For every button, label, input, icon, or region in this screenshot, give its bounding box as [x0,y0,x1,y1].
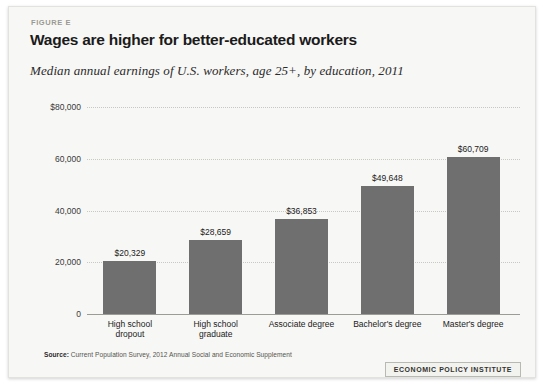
x-axis-category-label: High schooldropout [87,319,173,339]
x-axis-category-line: High school [87,319,173,329]
x-axis-category-line: Associate degree [259,319,345,329]
axis-labels-layer: $80,00060,00040,00020,0000$20,329High sc… [30,99,520,321]
x-axis-category-label: Bachelor's degree [344,319,430,329]
x-axis-category-label: Associate degree [259,319,345,329]
y-axis-tick-label: 60,000 [30,154,81,164]
y-axis-tick-label: 20,000 [30,257,81,267]
y-axis-tick-label: 0 [30,309,81,319]
x-axis-category-line: dropout [87,329,173,339]
bar-value-label: $60,709 [430,144,516,154]
page-title: Wages are higher for better-educated wor… [30,31,357,49]
bar-value-label: $28,659 [173,227,259,237]
figure-label: FIGURE E [31,18,71,27]
bar-chart-plot-area: $80,00060,00040,00020,0000$20,329High sc… [30,99,520,321]
figure-subtitle: Median annual earnings of U.S. workers, … [30,63,404,79]
x-axis-category-line: Master's degree [430,319,516,329]
figure-card: FIGURE E Wages are higher for better-edu… [8,6,536,378]
x-axis-category-line: Bachelor's degree [344,319,430,329]
source-text: Current Population Survey, 2012 Annual S… [71,351,292,358]
y-axis-tick-label: $80,000 [30,102,81,112]
x-axis-category-label: Master's degree [430,319,516,329]
source-note: Source: Current Population Survey, 2012 … [44,351,292,358]
source-prefix: Source: [44,351,69,358]
x-axis-category-label: High schoolgraduate [173,319,259,339]
y-axis-tick-label: 40,000 [30,206,81,216]
bar-value-label: $36,853 [259,206,345,216]
x-axis-category-line: High school [173,319,259,329]
epi-logo: ECONOMIC POLICY INSTITUTE [385,362,521,377]
bar-value-label: $49,648 [344,173,430,183]
bar-value-label: $20,329 [87,248,173,258]
x-axis-category-line: graduate [173,329,259,339]
